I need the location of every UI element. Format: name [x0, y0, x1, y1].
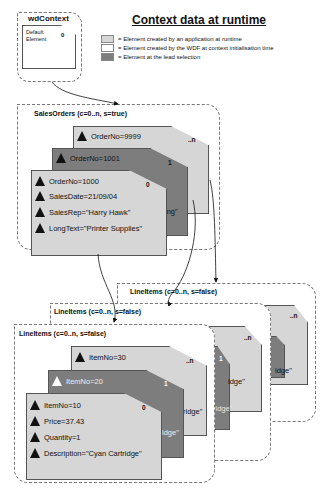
connector-arrows: [0, 0, 329, 494]
arrow-order1-to-lineitems: [168, 200, 195, 303]
arrow-ordern-to-lineitems: [210, 180, 216, 282]
arrow-order0-to-lineitems: [98, 254, 115, 322]
arrow-root-to-salesorders: [52, 82, 118, 104]
